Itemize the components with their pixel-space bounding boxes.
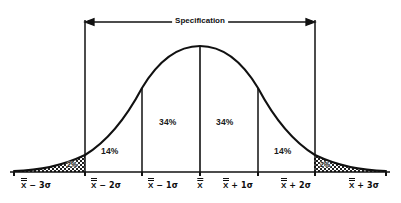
axis-label-plus-3-sigma: X + 3σ — [349, 180, 379, 190]
axis-label-plus-1-sigma: X + 1σ — [223, 180, 253, 190]
axis-label-plus-2-sigma: X + 2σ — [281, 180, 311, 190]
percent-label-right-inner: 34% — [216, 117, 234, 127]
x-double-bar-symbol: X — [223, 180, 228, 190]
percent-label-left-outer: 14% — [101, 146, 119, 156]
x-double-bar-symbol: X — [21, 180, 26, 190]
x-double-bar-symbol: X — [91, 180, 96, 190]
normal-distribution-diagram: Specification 2% 14% 34% 34% 14% 2% X − … — [0, 0, 401, 203]
axis-label-minus-3-sigma: X − 3σ — [21, 180, 51, 190]
x-double-bar-symbol: X — [281, 180, 286, 190]
axis-label-mean: X — [197, 180, 202, 190]
x-double-bar-symbol: X — [197, 180, 202, 190]
percent-label-left-tail: 2% — [67, 161, 77, 168]
axis-label-minus-1-sigma: X − 1σ — [148, 180, 178, 190]
percent-label-right-tail: 2% — [320, 161, 330, 168]
specification-label: Specification — [172, 16, 228, 25]
percent-label-right-outer: 14% — [274, 146, 292, 156]
x-double-bar-symbol: X — [148, 180, 153, 190]
x-double-bar-symbol: X — [349, 180, 354, 190]
bell-curve-figure — [0, 0, 401, 203]
percent-label-left-inner: 34% — [159, 117, 177, 127]
axis-label-minus-2-sigma: X − 2σ — [91, 180, 121, 190]
